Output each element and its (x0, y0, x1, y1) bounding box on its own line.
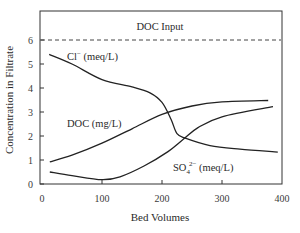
x-tick-label: 300 (215, 193, 230, 204)
y-axis-title: Concentration in Filtrate (3, 46, 15, 154)
doc-input-label: DOC Input (137, 21, 184, 32)
chloride-curve (49, 54, 278, 152)
y-tick-label: 6 (28, 35, 33, 46)
doc-curve (50, 101, 268, 162)
sulfate-label: SO42− (meq/L) (173, 160, 234, 176)
y-tick-label: 1 (28, 155, 33, 166)
y-tick-label: 4 (28, 83, 33, 94)
x-tick-label: 0 (40, 193, 45, 204)
doc-label: DOC (mg/L) (67, 118, 122, 130)
y-axis-ticks: 0123456 (28, 35, 44, 190)
chloride-label: Cl− (meq/L) (67, 50, 118, 63)
y-tick-label: 3 (28, 107, 33, 118)
plot-frame (40, 11, 282, 184)
y-tick-label: 0 (28, 179, 33, 190)
x-tick-label: 200 (155, 193, 170, 204)
x-tick-label: 400 (275, 193, 290, 204)
x-tick-label: 100 (95, 193, 110, 204)
y-tick-label: 5 (28, 59, 33, 70)
y-tick-label: 2 (28, 131, 33, 142)
x-axis-title: Bed Volumes (131, 211, 190, 223)
chart: 0123456 0100200300400 DOC Input Cl− (meq… (0, 0, 300, 233)
